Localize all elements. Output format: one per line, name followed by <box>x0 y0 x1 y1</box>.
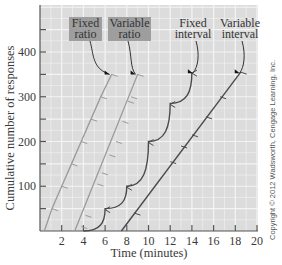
x-tick-label: 20 <box>251 234 263 248</box>
y-tick-label: 400 <box>18 45 36 59</box>
legend-label: interval <box>175 27 212 41</box>
x-axis-title: Time (minutes) <box>111 246 188 260</box>
x-tick-label: 6 <box>102 234 108 248</box>
y-tick-label: 200 <box>18 135 36 149</box>
chart: 2468101214161820100200300400 FixedratioV… <box>0 0 282 265</box>
legend-label: interval <box>222 27 259 41</box>
legend-label: ratio <box>75 27 97 41</box>
legend-label: ratio <box>119 27 141 41</box>
x-tick-label: 2 <box>59 234 65 248</box>
y-tick-label: 300 <box>18 90 36 104</box>
copyright-notice: Copyright © 2012 Wadsworth, Cengage Lear… <box>268 60 277 240</box>
x-tick-label: 4 <box>80 234 86 248</box>
y-axis-title: Cumulative number of responses <box>3 45 17 210</box>
x-tick-label: 18 <box>229 234 241 248</box>
x-tick-label: 16 <box>208 234 220 248</box>
x-tick-label: 14 <box>186 234 198 248</box>
y-tick-label: 100 <box>18 179 36 193</box>
